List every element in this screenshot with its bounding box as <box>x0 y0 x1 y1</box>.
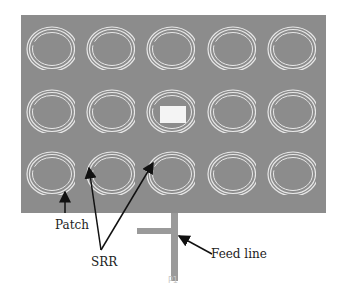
srr-arrow-2 <box>101 163 153 250</box>
srr-arrow-1 <box>89 168 101 250</box>
annotation-arrows <box>0 0 345 292</box>
patch-label: Patch <box>55 218 89 232</box>
feed-line-label: Feed line <box>211 247 267 261</box>
feed-arrow <box>179 236 212 254</box>
srr-label: SRR <box>91 255 117 269</box>
